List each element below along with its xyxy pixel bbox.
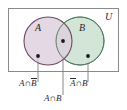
set-a-label: A — [35, 22, 41, 33]
region-label-a-only-second-bar: B — [31, 78, 37, 88]
region-label-intersection: A∩B — [44, 93, 62, 103]
dot-a-only — [36, 54, 40, 58]
dot-b-only — [86, 54, 90, 58]
venn-diagram-figure: U A B A∩B A∩B A∩B — [0, 0, 127, 110]
region-label-intersection-second: B — [56, 93, 62, 103]
region-label-a-only: A∩B — [19, 78, 37, 88]
universe-label: U — [105, 11, 112, 22]
region-label-b-only-second: B — [82, 78, 88, 88]
region-label-b-only: A∩B — [70, 78, 88, 88]
dot-intersection — [61, 39, 65, 43]
set-b-label: B — [79, 22, 85, 33]
